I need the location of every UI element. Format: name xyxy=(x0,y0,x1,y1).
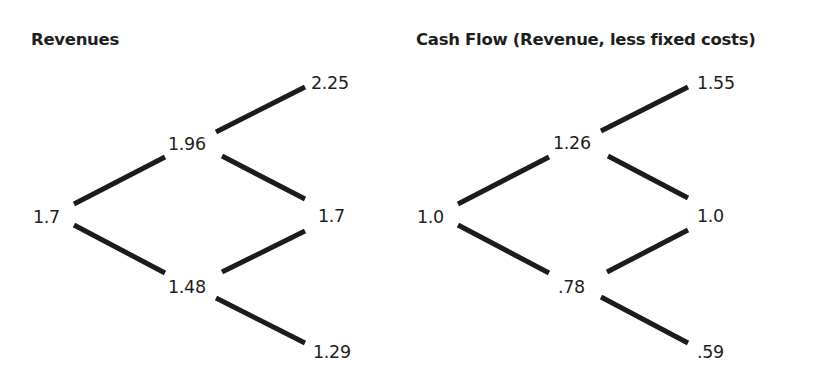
node-downdown: .59 xyxy=(697,342,724,362)
branch-down-downdown xyxy=(216,298,305,343)
branch-root-down xyxy=(458,225,549,273)
branch-root-up xyxy=(74,157,165,204)
node-root: 1.0 xyxy=(417,207,444,227)
branch-root-up xyxy=(458,157,549,204)
cash-flow-title: Cash Flow (Revenue, less fixed costs) xyxy=(416,30,755,49)
branch-up-updown xyxy=(608,156,688,198)
node-up: 1.26 xyxy=(553,133,591,153)
branch-down-downup xyxy=(607,230,688,272)
node-up: 1.96 xyxy=(168,134,206,154)
branch-down-downup xyxy=(222,231,305,272)
branch-down-downdown xyxy=(601,297,688,343)
branch-up-upup xyxy=(601,87,688,131)
node-upup: 1.55 xyxy=(697,73,735,93)
node-updown: 1.7 xyxy=(318,206,345,226)
node-downdown: 1.29 xyxy=(313,342,351,362)
node-updown: 1.0 xyxy=(697,206,724,226)
node-root: 1.7 xyxy=(33,207,60,227)
tree-branches xyxy=(0,0,820,383)
node-down: .78 xyxy=(558,277,585,297)
node-down: 1.48 xyxy=(168,277,206,297)
revenues-title: Revenues xyxy=(31,30,119,49)
node-upup: 2.25 xyxy=(311,73,349,93)
branch-root-down xyxy=(74,225,165,273)
branch-up-upup xyxy=(216,87,305,132)
branch-up-updown xyxy=(222,156,305,199)
